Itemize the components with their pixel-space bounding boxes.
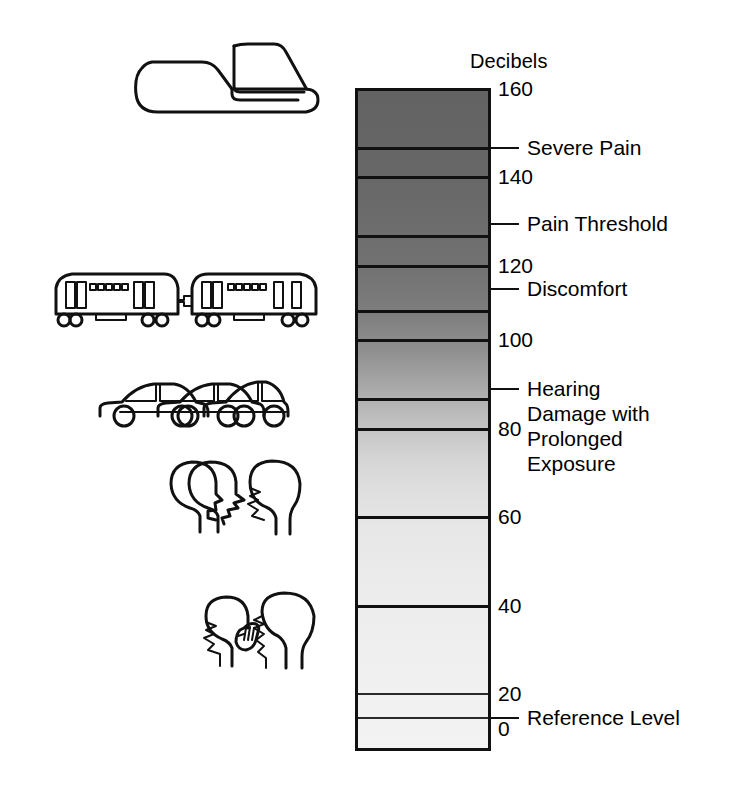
figure-canvas: Decibels 160 140 120 100 80 60 40 20 0 S…	[0, 0, 732, 800]
axis-tick-120: 120	[498, 255, 533, 276]
decibel-gradient	[355, 88, 491, 751]
annotation-pain-threshold: Pain Threshold	[527, 211, 668, 236]
axis-tick-0: 0	[498, 718, 510, 739]
whisper-icon	[188, 592, 324, 668]
decibel-scale-bar	[355, 88, 491, 751]
annotation-discomfort: Discomfort	[527, 276, 627, 301]
bar-rule-128	[355, 235, 491, 238]
bar-rule-60	[355, 516, 491, 519]
axis-tick-40: 40	[498, 595, 521, 616]
axis-tick-100: 100	[498, 329, 533, 350]
conversation-heads-icon	[158, 458, 324, 536]
bar-rule-0	[355, 717, 491, 719]
train-icon	[52, 266, 322, 328]
cars-icon	[96, 368, 288, 430]
bar-rule-150	[355, 147, 491, 150]
leader-pain-threshold	[491, 223, 519, 225]
bar-rule-120	[355, 265, 491, 268]
axis-tick-160: 160	[498, 78, 533, 99]
annotation-reference-level: Reference Level	[527, 705, 680, 730]
airplane-icon	[128, 42, 304, 126]
annotation-severe-pain: Severe Pain	[527, 135, 641, 160]
leader-hearing-damage	[491, 388, 519, 390]
bar-rule-140	[355, 176, 491, 179]
axis-tick-140: 140	[498, 166, 533, 187]
axis-tick-80: 80	[498, 418, 521, 439]
annotation-hearing-damage: Hearing Damage with Prolonged Exposure	[527, 376, 677, 476]
bar-rule-40	[355, 605, 491, 608]
leader-reference-level	[491, 717, 519, 719]
axis-tick-20: 20	[498, 683, 521, 704]
axis-tick-60: 60	[498, 506, 521, 527]
scale-title: Decibels	[470, 50, 548, 73]
bar-rule-85	[355, 398, 491, 401]
leader-severe-pain	[491, 147, 519, 149]
bar-rule-100	[355, 339, 491, 342]
bar-rule-110	[355, 310, 491, 313]
leader-discomfort	[491, 288, 519, 290]
bar-rule-80	[355, 428, 491, 431]
bar-rule-20	[355, 693, 491, 695]
